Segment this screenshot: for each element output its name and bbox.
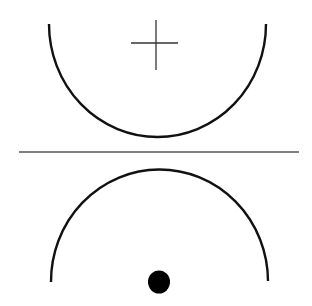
diagram-canvas	[0, 0, 312, 306]
diagram-svg	[0, 0, 312, 306]
dot-marker-icon	[148, 271, 170, 294]
